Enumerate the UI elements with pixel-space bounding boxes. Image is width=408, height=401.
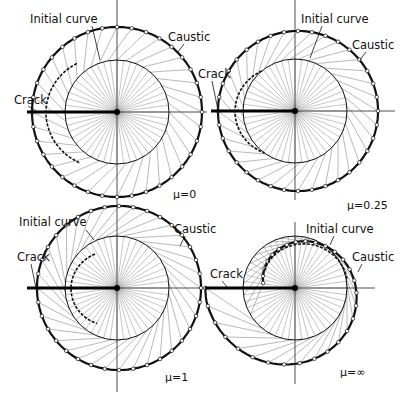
caustic-point	[103, 367, 107, 371]
caustic-point	[42, 153, 46, 157]
caustic-point	[251, 355, 255, 359]
crack-leader	[31, 264, 36, 288]
caustic-point	[314, 241, 318, 245]
mapping-ray	[308, 50, 350, 61]
caustic-point	[36, 300, 40, 304]
mapping-ray	[169, 293, 182, 341]
mapping-ray	[32, 112, 68, 130]
caustic-point	[189, 68, 193, 72]
radial-ray	[104, 238, 117, 288]
mapping-ray	[167, 302, 172, 351]
mapping-ray	[91, 338, 130, 365]
caustic-point	[170, 45, 174, 49]
radial-ray	[282, 61, 295, 111]
mapping-ray	[271, 163, 301, 186]
radial-ray	[295, 85, 340, 111]
radial-ray	[117, 99, 167, 112]
crack-label: Crack	[198, 67, 231, 81]
radial-ray	[295, 288, 345, 301]
mapping-ray	[117, 32, 146, 60]
caustic-point	[50, 56, 54, 60]
caustic-point	[348, 170, 352, 174]
caustic-point	[256, 40, 260, 44]
radial-ray	[67, 288, 117, 301]
caustic-label: Caustic	[352, 250, 394, 264]
mapping-ray	[108, 28, 132, 61]
caustic-figure: Initial curve Caustic Crack μ=0 Initial …	[0, 0, 408, 401]
caustic-point	[266, 361, 270, 365]
radial-ray	[295, 288, 340, 314]
mapping-ray	[331, 74, 373, 84]
radial-ray	[67, 112, 117, 125]
mapping-ray	[162, 86, 201, 97]
caustic-point	[365, 69, 369, 73]
radial-ray	[295, 243, 321, 288]
caustic-point	[245, 170, 249, 174]
mapping-ray	[162, 138, 172, 177]
caustic-point	[145, 363, 149, 367]
mapping-ray	[102, 163, 126, 196]
caustic-point	[313, 357, 317, 361]
mapping-ray	[132, 157, 143, 196]
initial-curve-leader	[92, 26, 100, 60]
origin-dot	[114, 109, 120, 115]
caustic-point	[130, 26, 134, 30]
caustic-point	[35, 81, 39, 85]
mapping-ray	[316, 60, 359, 64]
caustic-point	[224, 335, 228, 339]
caustic-point	[31, 125, 35, 129]
radial-ray	[117, 112, 167, 125]
mapping-ray	[62, 161, 99, 177]
caustic-point	[357, 161, 361, 165]
panel-mu-0.25: Initial curve Caustic Crack μ=0.25	[198, 0, 395, 212]
radial-ray	[117, 112, 162, 138]
caustic-point	[180, 165, 184, 169]
caustic-point	[115, 195, 119, 199]
initial-curve-label: Initial curve	[30, 12, 98, 26]
mapping-ray	[312, 153, 326, 190]
radial-ray	[117, 251, 154, 288]
caustic-point	[117, 204, 121, 208]
radial-ray	[295, 251, 332, 288]
caustic-point	[86, 190, 90, 194]
caustic-point	[324, 34, 328, 38]
caustic-point	[375, 123, 379, 127]
caustic-point	[296, 189, 300, 193]
mapping-ray	[84, 32, 88, 72]
caustic-point	[130, 194, 134, 198]
mapping-ray	[135, 47, 172, 63]
caustic-point	[355, 291, 359, 295]
crack-label: Crack	[210, 267, 243, 281]
caustic-point	[336, 178, 340, 182]
caustic-point	[144, 190, 148, 194]
radial-ray	[258, 288, 295, 325]
mapping-ray	[37, 288, 74, 317]
radial-ray	[91, 67, 117, 112]
caustic-point	[35, 139, 39, 143]
caustic-point	[365, 149, 369, 153]
radial-ray	[117, 288, 162, 314]
caustic-point	[348, 268, 352, 272]
caustic-point	[199, 286, 203, 290]
caustic-point	[170, 175, 174, 179]
mapping-ray	[48, 329, 95, 335]
caustic-point	[103, 205, 107, 209]
caustic-point	[227, 149, 231, 153]
caustic-point	[333, 250, 337, 254]
mapping-ray	[91, 28, 102, 67]
mapping-ray	[281, 32, 312, 61]
caustic-point	[158, 215, 162, 219]
caustic-point	[195, 139, 199, 143]
caustic-point	[158, 37, 162, 41]
mapping-ray	[122, 225, 172, 236]
caustic-point	[100, 194, 104, 198]
radial-ray	[269, 111, 295, 156]
mapping-ray	[284, 332, 322, 364]
crack-label: Crack	[14, 93, 47, 107]
radial-ray	[295, 111, 345, 124]
mapping-ray	[166, 94, 202, 112]
caustic-point	[188, 327, 192, 331]
initial-curve-label: Initial curve	[19, 215, 87, 229]
caustic-label: Caustic	[352, 38, 394, 52]
mapping-ray	[325, 147, 332, 186]
